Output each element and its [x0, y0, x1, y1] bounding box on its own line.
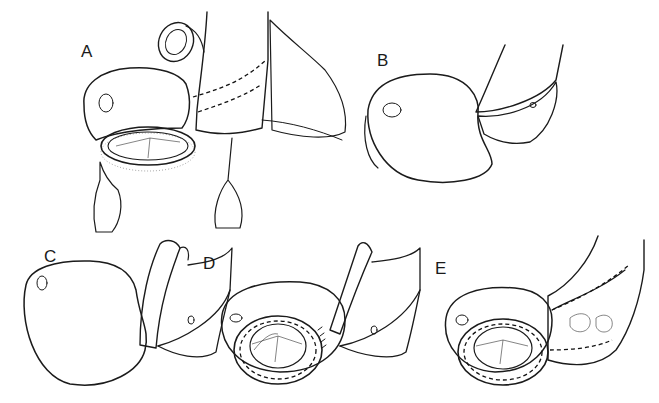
panel-d-drawing [222, 243, 420, 384]
panel-label-c: C [44, 247, 56, 266]
panel-b-drawing [365, 45, 563, 182]
panel-label-b: B [377, 51, 388, 70]
panel-label-a: A [81, 42, 93, 61]
panel-label-e: E [435, 259, 446, 278]
panel-label-d: D [203, 254, 215, 273]
panel-a-drawing [84, 12, 346, 232]
panel-e-drawing [445, 236, 644, 385]
illustration-canvas: A B C D [0, 0, 659, 403]
